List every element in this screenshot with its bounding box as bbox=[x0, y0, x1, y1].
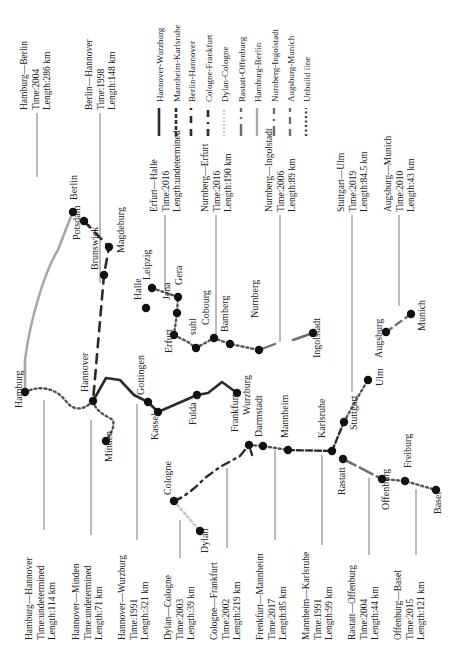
city-label: Berlin bbox=[68, 175, 79, 200]
segment-time: Time:1991 bbox=[313, 598, 323, 640]
railway-network-diagram: HamburgHannoverMindenBerlinPotsdamBrunsw… bbox=[0, 0, 454, 671]
city-marker bbox=[192, 344, 200, 352]
segment-info: Augsburg—MunichTime:2010Length:43 km bbox=[383, 135, 416, 212]
city-label: Hamburg bbox=[13, 370, 24, 408]
city-label: Cobourg bbox=[200, 290, 211, 325]
segment-title: Berlin—Hannover bbox=[84, 38, 94, 110]
segment-time: Time:2004 bbox=[31, 68, 41, 110]
city-label: Basel bbox=[432, 492, 443, 514]
city-label: Magdeburg bbox=[115, 207, 126, 253]
city-label: Dylan bbox=[199, 529, 210, 553]
segment-length: Length:99 km bbox=[324, 586, 334, 640]
city-label: Stuttgart bbox=[348, 395, 359, 430]
legend-label: Hannover-Wurzburg bbox=[155, 27, 165, 102]
segment-title: Nurnberg—Erfurt bbox=[200, 143, 210, 212]
segment-length: Length:undetermined bbox=[172, 130, 182, 212]
segment-length: Length:121 km bbox=[416, 581, 426, 640]
legend-label: Berlin-Hannover bbox=[187, 41, 197, 102]
segment-time: Time:2003 bbox=[175, 598, 185, 640]
segment-title: Offenburg—Basel bbox=[393, 570, 403, 640]
segment-title: Hannover—Wurzburg bbox=[117, 555, 127, 640]
city-label: Darmstadt bbox=[253, 395, 264, 437]
city-label: Brunswick bbox=[89, 227, 100, 270]
segment-length: Length:219 km bbox=[232, 581, 242, 640]
segment-length: Length:84.5 km bbox=[359, 151, 369, 212]
segment-title: Hamburg—Hannover bbox=[24, 556, 34, 640]
segment-info: Rastatt—OffenburgTime:2004Length:44 km bbox=[347, 565, 380, 640]
city-marker bbox=[148, 284, 156, 292]
segment-length: Length:43 km bbox=[406, 158, 416, 212]
segment-length: Length:71 km bbox=[94, 586, 104, 640]
city-marker bbox=[226, 340, 234, 348]
city-marker bbox=[340, 418, 348, 426]
legend-label: Unbuild line bbox=[302, 57, 312, 102]
city-marker bbox=[255, 346, 263, 354]
segment-time: Time:2006 bbox=[276, 170, 286, 212]
city-label: Gottingen bbox=[135, 355, 146, 395]
line-hannover-wurzburg bbox=[93, 378, 237, 412]
segment-title: Dylan—Cologne bbox=[163, 575, 173, 640]
legend-label: Mannheim-Karlsruhe bbox=[172, 25, 182, 102]
segment-info: Dylan—CologneTime:2003Length:39 km bbox=[163, 575, 196, 640]
city-label: Bamberg bbox=[219, 296, 230, 332]
city-marker bbox=[170, 497, 178, 505]
segment-info: Hamburg—BerlinTime:2004Length:286 km bbox=[19, 41, 52, 110]
line-cologne-frankfurt bbox=[174, 445, 252, 501]
city-label: Ingolstadt bbox=[311, 318, 322, 358]
city-marker bbox=[142, 304, 150, 312]
segment-info: Hannover—MindenTime:undeterminedLength:7… bbox=[71, 563, 104, 640]
city-label: Gera bbox=[173, 265, 184, 285]
segment-time: Time:2015 bbox=[405, 598, 415, 640]
segment-time: Time:2017 bbox=[267, 598, 277, 640]
segment-length: Length:44 km bbox=[370, 586, 380, 640]
city-label: Leipzig bbox=[141, 249, 152, 280]
city-marker bbox=[100, 271, 108, 279]
segment-info: Stuttgart—UlmTime:2019Length:84.5 km bbox=[336, 151, 369, 212]
rail-map: HamburgHannoverMindenBerlinPotsdamBrunsw… bbox=[0, 0, 454, 671]
city-marker bbox=[259, 442, 267, 450]
legend-label: Rastatt-Offenburg bbox=[237, 36, 247, 102]
segment-info-labels: Hamburg—BerlinTime:2004Length:286 kmBerl… bbox=[19, 38, 426, 640]
city-label: Wurzburg bbox=[241, 375, 252, 415]
city-label: Kassel bbox=[149, 413, 160, 440]
city-marker bbox=[245, 441, 253, 449]
segment-time: Time:2010 bbox=[395, 170, 405, 212]
segment-info: Offenburg—BaselTime:2015Length:121 km bbox=[393, 570, 426, 640]
segment-time: Time:2019 bbox=[348, 170, 358, 212]
segment-time: Time:1991 bbox=[129, 598, 139, 640]
segment-info: Frenkfurt—MannheimTime:2017Length:85 km bbox=[255, 553, 288, 640]
segment-title: Stuttgart—Ulm bbox=[336, 152, 346, 212]
city-labels: HamburgHannoverMindenBerlinPotsdamBrunsw… bbox=[13, 175, 443, 553]
segment-title: Nurnberg—Ingolstadt bbox=[264, 128, 274, 212]
segment-length: Length:39 km bbox=[186, 586, 196, 640]
legend-label: Nurnberg-Ingolstadt bbox=[270, 28, 280, 102]
segment-title: Cologne—Frankfurt bbox=[209, 562, 219, 640]
segment-time: Time:undetermined bbox=[36, 565, 46, 640]
segment-info: Mannheim—KarlsruheTime:1991Length:99 km bbox=[301, 552, 334, 640]
line-hamburg-berlin bbox=[25, 212, 73, 392]
segment-time: Time:2016 bbox=[161, 170, 171, 212]
city-label: Offenburg bbox=[380, 469, 391, 510]
segment-time: Time:1998 bbox=[96, 68, 106, 110]
city-label: Nurnberg bbox=[249, 280, 260, 318]
city-marker bbox=[339, 455, 347, 463]
segment-title: Hannover—Minden bbox=[71, 563, 81, 640]
city-marker bbox=[193, 391, 201, 399]
city-label: Hannover bbox=[79, 352, 90, 392]
city-label: Fulda bbox=[187, 402, 198, 425]
city-marker bbox=[89, 397, 97, 405]
segment-info: Nurnberg—ErfurtTime:2016Length:190 km bbox=[200, 143, 233, 212]
segment-title: Augsburg—Munich bbox=[383, 135, 393, 212]
line-dylan-cologne bbox=[174, 501, 200, 531]
segment-title: Rastatt—Offenburg bbox=[347, 565, 357, 640]
city-label: Ulm bbox=[374, 368, 385, 386]
city-marker bbox=[284, 446, 292, 454]
segment-time: Time:2016 bbox=[212, 170, 222, 212]
segment-time: Time:2004 bbox=[359, 598, 369, 640]
segment-length: Length:148 km bbox=[107, 51, 117, 110]
segment-title: Erfurt—Halle bbox=[149, 159, 159, 212]
legend: Hannover-WurzburgMannheim-KarlsruheBerli… bbox=[155, 25, 312, 136]
segment-title: Hamburg—Berlin bbox=[19, 41, 29, 110]
segment-length: Length:286 km bbox=[42, 51, 52, 110]
city-label: Mannheim bbox=[279, 394, 290, 438]
